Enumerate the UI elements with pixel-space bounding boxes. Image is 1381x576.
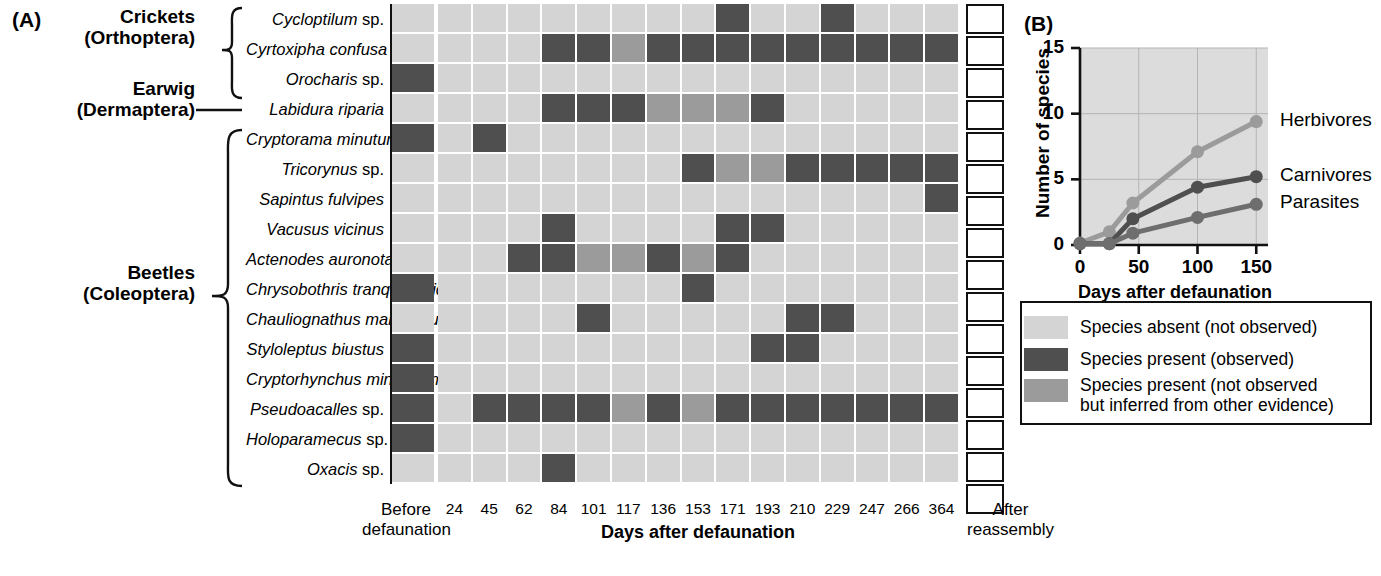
matrix-cell [473,424,506,452]
matrix-cell [508,184,541,212]
before-defaunation-cell [392,154,434,182]
matrix-cell [925,124,958,152]
matrix-cell [647,244,680,272]
matrix-cell [682,244,715,272]
matrix-cell [856,184,889,212]
species-name: Chauliognathus marginatus [246,304,388,334]
group-label-earwig-line2: (Dermaptera) [20,99,195,120]
matrix-cell [786,304,819,332]
matrix-row [438,4,958,32]
day-tick-label: 101 [577,500,610,518]
chart-series-label-parasites: Parasites [1280,191,1359,213]
matrix-cell [821,64,854,92]
bracket-beetles [212,130,242,486]
matrix-cell [856,304,889,332]
matrix-cell [890,274,923,302]
matrix-cell [508,334,541,362]
matrix-cell [716,4,749,32]
matrix-cell [682,214,715,242]
matrix-cell [925,334,958,362]
matrix-cell [786,394,819,422]
matrix-cell [577,4,610,32]
matrix-cell [542,274,575,302]
species-name: Orocharis sp. [246,64,388,94]
chart-series-label-herbivores: Herbivores [1280,109,1372,131]
after-reassembly-cell [966,452,1004,482]
before-defaunation-cell [392,94,434,122]
before-defaunation-cell [392,334,434,362]
matrix-cell [508,94,541,122]
matrix-cell [438,334,471,362]
matrix-cell [856,34,889,62]
figure-legend: Species absent (not observed) Species pr… [1020,301,1372,425]
matrix-cell [647,274,680,302]
matrix-cell [682,124,715,152]
day-tick-label: 136 [647,500,680,518]
matrix-cell [821,304,854,332]
matrix-cell [786,124,819,152]
matrix-cell [716,334,749,362]
matrix-cell [508,214,541,242]
day-tick-label: 84 [542,500,575,518]
matrix-row [438,394,958,422]
matrix-cell [473,364,506,392]
matrix-cell [751,94,784,122]
day-tick-label: 171 [716,500,749,518]
species-name: Actenodes auronotata [246,244,388,274]
matrix-cell [786,244,819,272]
matrix-cell [647,34,680,62]
matrix-cell [577,334,610,362]
before-defaunation-cell [392,124,434,152]
matrix-row [438,124,958,152]
matrix-cell [682,154,715,182]
matrix-cell [612,454,645,482]
matrix-cell [612,34,645,62]
species-name: Oxacis sp. [246,454,388,484]
matrix-cell [925,394,958,422]
matrix-cell [682,394,715,422]
matrix-cell [577,34,610,62]
matrix-cell [577,94,610,122]
matrix-cell [786,64,819,92]
matrix-cell [821,394,854,422]
matrix-cell [438,94,471,122]
matrix-row [438,214,958,242]
matrix-cell [716,424,749,452]
matrix-cell [856,364,889,392]
matrix-cell [647,184,680,212]
after-reassembly-cell [966,260,1004,290]
matrix-cell [508,34,541,62]
matrix-cell [821,154,854,182]
matrix-cell [542,94,575,122]
matrix-cell [890,214,923,242]
after-reassembly-cell [966,36,1004,66]
chart-y-axis-label: Number of species [1032,38,1054,228]
after-reassembly-cell [966,388,1004,418]
matrix-cell [438,124,471,152]
matrix-cell [716,34,749,62]
chart-x-tick-label: 150 [1233,256,1279,278]
matrix-cell [577,244,610,272]
day-tick-label: 210 [786,500,819,518]
matrix-cell [821,454,854,482]
matrix-row [438,184,958,212]
legend-item: Species absent (not observed) [1024,311,1370,343]
matrix-cell [508,154,541,182]
matrix-cell [508,4,541,32]
matrix-cell [856,94,889,122]
matrix-cell [925,274,958,302]
legend-item: Species present (observed) [1024,343,1370,375]
after-reassembly-cell [966,132,1004,162]
after-reassembly-cell [966,4,1004,34]
day-tick-label: 153 [682,500,715,518]
matrix-cell [751,454,784,482]
legend-label: Species absent (not observed) [1080,317,1317,337]
matrix-cell [682,34,715,62]
chart-data-point [1126,212,1139,225]
matrix-cell [890,94,923,122]
matrix-cell [473,184,506,212]
matrix-cell [716,304,749,332]
matrix-cell [716,274,749,302]
matrix-cell [856,424,889,452]
legend-item: Species present (not observed but inferr… [1024,375,1370,415]
